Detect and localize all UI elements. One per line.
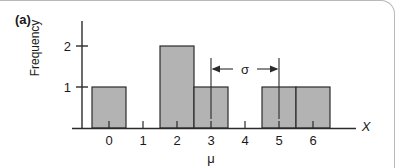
x-tick-label-3: 3: [207, 133, 214, 148]
x-axis-title: X: [361, 119, 372, 134]
histogram-chart: 2 1 0 1 2 3 4 5 6 X μ: [0, 1, 395, 168]
sigma-arrowhead-right: [270, 66, 279, 73]
x-tick-label-0: 0: [105, 133, 112, 148]
x-tick-label-2: 2: [173, 133, 180, 148]
x-tick-label-5: 5: [275, 133, 282, 148]
y-tick-label-2: 2: [64, 39, 71, 54]
bar-2: [160, 46, 194, 128]
figure-page: (a) Frequency 2 1 0 1: [0, 0, 395, 168]
y-tick-label-1: 1: [64, 80, 71, 95]
sigma-label: σ: [241, 62, 249, 77]
x-tick-labels-group: 0 1 2 3 4 5 6: [105, 133, 316, 148]
x-tick-label-4: 4: [241, 133, 248, 148]
sigma-arrowhead-left: [212, 66, 221, 73]
x-tick-label-6: 6: [309, 133, 316, 148]
x-tick-label-1: 1: [139, 133, 146, 148]
mean-label: μ: [207, 151, 215, 166]
